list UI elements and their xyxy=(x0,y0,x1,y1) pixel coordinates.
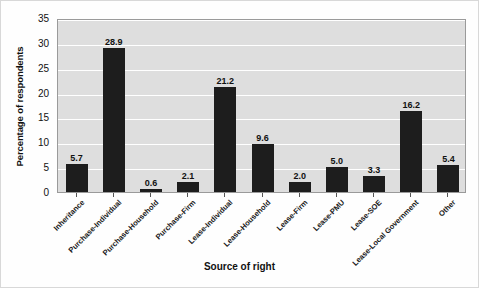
x-tick-mark xyxy=(336,193,337,197)
bar xyxy=(214,87,236,192)
bar xyxy=(326,167,348,192)
bar xyxy=(140,189,162,192)
x-tick-mark xyxy=(299,193,300,197)
x-tick-label: Lease-Local Government xyxy=(351,198,421,268)
bar xyxy=(177,182,199,192)
plot-area: 5.728.90.62.121.29.62.05.03.316.25.4 xyxy=(57,19,466,193)
x-tick-mark xyxy=(224,193,225,197)
bar-value-label: 0.6 xyxy=(145,178,158,188)
x-tick-label: Lease-SOE xyxy=(349,198,383,232)
x-tick-mark xyxy=(373,193,374,197)
x-tick-mark xyxy=(262,193,263,197)
y-tick-label: 15 xyxy=(1,113,49,123)
x-tick-mark xyxy=(76,193,77,197)
bar-value-label: 28.9 xyxy=(105,37,123,47)
bar-value-label: 21.2 xyxy=(217,76,235,86)
bar-value-label: 5.7 xyxy=(70,153,83,163)
y-tick-label: 0 xyxy=(1,188,49,198)
bar xyxy=(437,165,459,192)
x-tick-label: Lease-PMU xyxy=(311,198,346,233)
x-axis-title-label: Source of right xyxy=(204,261,275,272)
x-tick-mark xyxy=(187,193,188,197)
x-tick-mark xyxy=(410,193,411,197)
bar xyxy=(363,176,385,192)
x-tick-mark xyxy=(150,193,151,197)
bar-value-label: 9.6 xyxy=(256,133,269,143)
y-tick-label: 35 xyxy=(1,14,49,24)
x-tick-mark xyxy=(113,193,114,197)
y-tick-label: 10 xyxy=(1,138,49,148)
y-axis-tick-labels: 05101520253035 xyxy=(1,19,57,193)
bar-value-label: 2.1 xyxy=(182,171,195,181)
x-tick-label: Other xyxy=(437,198,458,219)
bar xyxy=(103,48,125,192)
bar xyxy=(252,144,274,192)
bar xyxy=(66,164,88,192)
bar-value-label: 5.4 xyxy=(442,154,455,164)
x-tick-label: Lease-Firm xyxy=(274,198,309,233)
x-axis-title: Source of right xyxy=(1,261,478,272)
y-tick-label: 20 xyxy=(1,89,49,99)
x-tick-mark xyxy=(447,193,448,197)
bar xyxy=(400,111,422,192)
bar-value-label: 2.0 xyxy=(293,171,306,181)
y-tick-label: 30 xyxy=(1,39,49,49)
y-tick-label: 25 xyxy=(1,64,49,74)
bar-value-label: 3.3 xyxy=(368,165,381,175)
bar-value-label: 5.0 xyxy=(331,156,344,166)
x-tick-label: Inheritance xyxy=(51,198,86,233)
bar xyxy=(289,182,311,192)
chart-figure: Percentage of respondents 05101520253035… xyxy=(0,0,479,288)
gridline xyxy=(58,20,465,21)
y-tick-label: 5 xyxy=(1,163,49,173)
bar-value-label: 16.2 xyxy=(402,100,420,110)
